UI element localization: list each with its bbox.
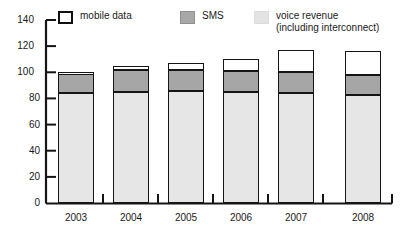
bar-segment-sms-2008[interactable] xyxy=(345,75,381,95)
ytick-label-20: 20 xyxy=(14,172,40,182)
bar-segment-voice-2003[interactable] xyxy=(58,93,94,203)
bar-segment-sms-2007[interactable] xyxy=(278,72,314,93)
bar-segment-mobile-data-2003[interactable] xyxy=(58,72,94,75)
ytick-label-100: 100 xyxy=(8,67,34,77)
bar-segment-sms-2003[interactable] xyxy=(58,74,94,94)
xtick-label-2005: 2005 xyxy=(166,213,206,223)
bar-segment-mobile-data-2005[interactable] xyxy=(168,63,204,70)
ytick-label-120: 120 xyxy=(8,41,34,51)
ytick-label-80: 80 xyxy=(14,93,40,103)
bar-segment-voice-2006[interactable] xyxy=(223,92,259,203)
bar-segment-sms-2004[interactable] xyxy=(113,70,149,92)
xtick-label-2003: 2003 xyxy=(56,213,96,223)
bar-segment-mobile-data-2008[interactable] xyxy=(345,51,381,75)
stacked-bar-chart: mobile data SMS voice revenue (including… xyxy=(0,0,405,237)
bar-segment-mobile-data-2007[interactable] xyxy=(278,50,314,72)
bar-segment-sms-2005[interactable] xyxy=(168,70,204,91)
ytick-label-0: 0 xyxy=(14,198,40,208)
bar-segment-mobile-data-2006[interactable] xyxy=(223,59,259,71)
bar-segment-mobile-data-2004[interactable] xyxy=(113,66,149,70)
xtick-label-2004: 2004 xyxy=(111,213,151,223)
bar-segment-voice-2004[interactable] xyxy=(113,92,149,203)
ytick-label-60: 60 xyxy=(14,120,40,130)
bar-segment-voice-2005[interactable] xyxy=(168,91,204,204)
ytick-label-140: 140 xyxy=(8,15,34,25)
xtick-label-2008: 2008 xyxy=(343,213,383,223)
ytick-label-40: 40 xyxy=(14,146,40,156)
bar-segment-voice-2007[interactable] xyxy=(278,93,314,203)
bar-segment-sms-2006[interactable] xyxy=(223,71,259,92)
xtick-label-2006: 2006 xyxy=(221,213,261,223)
bar-segment-voice-2008[interactable] xyxy=(345,95,381,204)
xtick-label-2007: 2007 xyxy=(276,213,316,223)
plot-area: 0 20 40 60 80 100 120 140 xyxy=(0,0,405,237)
